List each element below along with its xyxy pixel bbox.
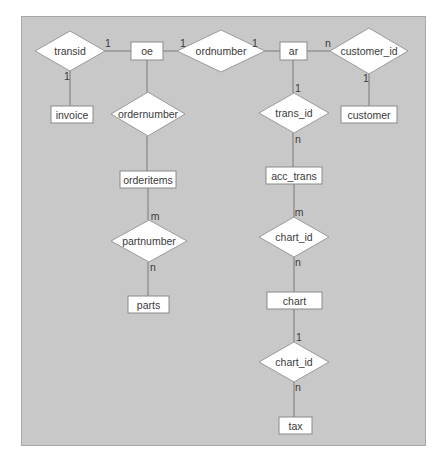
cardinality-label: 1	[180, 37, 186, 49]
entity-oe[interactable]: oe	[131, 42, 163, 60]
entity-ar[interactable]: ar	[280, 42, 307, 60]
relationship-label: ordernumber	[118, 108, 179, 120]
relationship-rel-trans-id[interactable]: trans_id	[259, 93, 329, 133]
er-diagram: transidordnumbercustomer_idordernumbertr…	[0, 0, 444, 463]
relationship-label: partnumber	[122, 235, 176, 247]
relationship-rel-chart-id-1[interactable]: chart_id	[259, 217, 329, 257]
cardinality-label: m	[295, 206, 304, 218]
entity-tax[interactable]: tax	[279, 417, 312, 434]
relationship-label: customer_id	[340, 45, 397, 57]
cardinality-label: 1	[64, 70, 70, 82]
relationship-rel-chart-id-2[interactable]: chart_id	[259, 342, 329, 382]
entity-label: customer	[347, 109, 391, 121]
cardinality-label: 1	[295, 82, 301, 94]
entity-orderitems[interactable]: orderitems	[120, 171, 176, 188]
cardinality-label: n	[150, 261, 156, 273]
entity-acc-trans[interactable]: acc_trans	[266, 167, 322, 184]
entity-parts[interactable]: parts	[128, 296, 169, 313]
relationship-label: ordnumber	[196, 45, 247, 57]
cardinality-label: 1	[252, 37, 258, 49]
relationship-label: chart_id	[275, 356, 313, 368]
entity-label: oe	[141, 45, 153, 57]
cardinality-label: 1	[105, 37, 111, 49]
cardinality-label: n	[295, 133, 301, 145]
relationships: transidordnumbercustomer_idordernumbertr…	[35, 28, 408, 382]
relationship-rel-transid[interactable]: transid	[35, 31, 105, 71]
cardinality-label: 1	[363, 72, 369, 84]
relationship-label: chart_id	[275, 231, 313, 243]
cardinality-label: 1	[296, 331, 302, 343]
cardinality-label: m	[151, 210, 160, 222]
entity-label: invoice	[56, 109, 89, 121]
entity-label: chart	[283, 295, 306, 307]
relationship-rel-customer-id[interactable]: customer_id	[330, 28, 408, 74]
entity-label: tax	[288, 420, 303, 432]
relationship-rel-partnumber[interactable]: partnumber	[111, 220, 187, 262]
entity-label: ar	[289, 45, 299, 57]
relationship-label: transid	[54, 45, 86, 57]
relationship-label: trans_id	[275, 107, 313, 119]
entity-label: orderitems	[123, 174, 173, 186]
cardinality-label: n	[295, 256, 301, 268]
entity-label: acc_trans	[271, 170, 317, 182]
entity-customer[interactable]: customer	[341, 106, 397, 123]
entity-invoice[interactable]: invoice	[51, 106, 93, 123]
entities: oearinvoicecustomerorderitemsacc_transpa…	[51, 42, 397, 434]
cardinalities: 1111n11nmnmn1n	[64, 37, 369, 393]
entity-label: parts	[137, 299, 160, 311]
cardinality-label: n	[325, 37, 331, 49]
entity-chart[interactable]: chart	[267, 292, 322, 309]
relationship-rel-ordernumber[interactable]: ordernumber	[111, 92, 185, 136]
cardinality-label: n	[295, 381, 301, 393]
